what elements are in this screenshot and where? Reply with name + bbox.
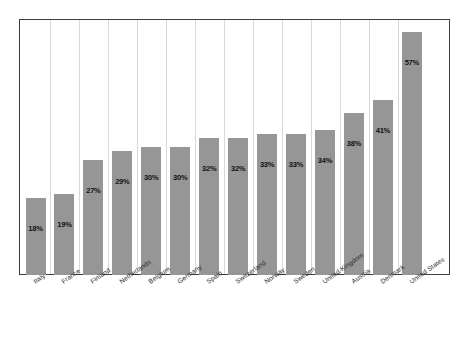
bar: 32% — [228, 138, 248, 275]
bar: 57% — [402, 32, 422, 275]
bar-value-label: 32% — [231, 164, 245, 173]
bar-value-label: 34% — [318, 156, 332, 165]
bar: 33% — [257, 134, 277, 275]
bar: 27% — [83, 160, 103, 275]
bar-value-label: 29% — [115, 177, 129, 186]
bar: 18% — [26, 198, 46, 275]
bar: 30% — [170, 147, 190, 275]
bar-value-label: 32% — [202, 164, 216, 173]
bar-value-label: 30% — [173, 173, 187, 182]
bar-value-label: 57% — [405, 58, 419, 67]
bar-value-label: 33% — [289, 160, 303, 169]
bar-value-label: 33% — [260, 160, 274, 169]
bars-layer: 18%19%27%29%30%30%32%32%33%33%34%38%41%5… — [19, 19, 450, 275]
bar-value-label: 18% — [28, 224, 42, 233]
bar-value-label: 19% — [57, 220, 71, 229]
bar: 34% — [315, 130, 335, 275]
bar-value-label: 30% — [144, 173, 158, 182]
bar-chart: 18%19%27%29%30%30%32%32%33%33%34%38%41%5… — [0, 0, 463, 341]
bar: 32% — [199, 138, 219, 275]
bar-value-label: 27% — [86, 186, 100, 195]
bar: 41% — [373, 100, 393, 275]
bar: 38% — [344, 113, 364, 275]
bar: 29% — [112, 151, 132, 275]
bar-value-label: 38% — [347, 139, 361, 148]
bar: 30% — [141, 147, 161, 275]
bar: 19% — [54, 194, 74, 275]
bar: 33% — [286, 134, 306, 275]
bar-value-label: 41% — [376, 126, 390, 135]
